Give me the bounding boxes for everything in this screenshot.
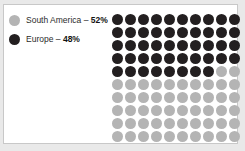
- dot-south-america: [190, 131, 201, 142]
- dot-europe: [190, 40, 201, 51]
- dot-south-america: [151, 105, 162, 116]
- dot-south-america: [125, 105, 136, 116]
- dot-europe: [177, 40, 188, 51]
- dot-south-america: [229, 79, 240, 90]
- dot-europe: [177, 27, 188, 38]
- dot-europe: [203, 14, 214, 25]
- legend-separator-europe: –: [56, 34, 61, 44]
- dot-south-america: [216, 66, 227, 77]
- dot-europe: [164, 14, 175, 25]
- dot-europe: [216, 14, 227, 25]
- legend-swatch-south-america: [9, 15, 20, 26]
- dot-south-america: [151, 92, 162, 103]
- dot-europe: [229, 14, 240, 25]
- dot-europe: [138, 14, 149, 25]
- dot-europe: [190, 53, 201, 64]
- dot-europe: [216, 27, 227, 38]
- dot-south-america: [203, 118, 214, 129]
- legend-item-europe[interactable]: Europe – 48%: [9, 30, 109, 48]
- dot-europe: [138, 66, 149, 77]
- dot-europe: [229, 27, 240, 38]
- dot-south-america: [216, 118, 227, 129]
- dot-europe: [112, 40, 123, 51]
- legend-separator-south-america: –: [84, 15, 89, 25]
- dot-europe: [203, 27, 214, 38]
- dot-south-america: [112, 131, 123, 142]
- dot-south-america: [177, 92, 188, 103]
- legend-name-europe: Europe: [26, 34, 53, 44]
- legend-name-south-america: South America: [26, 15, 81, 25]
- dot-south-america: [164, 105, 175, 116]
- legend-item-south-america[interactable]: South America – 52%: [9, 11, 109, 29]
- dot-europe: [177, 14, 188, 25]
- chart-legend: South America – 52% Europe – 48%: [9, 11, 109, 49]
- dot-south-america: [190, 92, 201, 103]
- dot-south-america: [203, 79, 214, 90]
- dot-south-america: [138, 79, 149, 90]
- dot-row: [112, 131, 242, 144]
- dot-south-america: [216, 92, 227, 103]
- dot-row: [112, 14, 242, 27]
- dot-south-america: [164, 79, 175, 90]
- dot-europe: [112, 14, 123, 25]
- dot-south-america: [138, 105, 149, 116]
- dot-europe: [190, 27, 201, 38]
- dot-south-america: [203, 105, 214, 116]
- dot-south-america: [112, 79, 123, 90]
- dot-south-america: [151, 118, 162, 129]
- legend-value-south-america: 52%: [91, 15, 108, 25]
- dot-south-america: [216, 105, 227, 116]
- dot-south-america: [138, 118, 149, 129]
- dot-europe: [203, 66, 214, 77]
- dot-south-america: [164, 131, 175, 142]
- legend-label-europe: Europe – 48%: [26, 34, 80, 45]
- dot-south-america: [138, 92, 149, 103]
- dot-south-america: [177, 118, 188, 129]
- pictogram-chart-figure: South America – 52% Europe – 48%: [0, 0, 245, 151]
- dot-europe: [112, 53, 123, 64]
- legend-label-south-america: South America – 52%: [26, 15, 108, 26]
- dot-south-america: [216, 131, 227, 142]
- dot-europe: [177, 53, 188, 64]
- dot-south-america: [229, 105, 240, 116]
- dot-europe: [229, 40, 240, 51]
- dot-europe: [138, 40, 149, 51]
- dot-south-america: [177, 105, 188, 116]
- dot-row: [112, 92, 242, 105]
- dot-row: [112, 79, 242, 92]
- dot-south-america: [229, 92, 240, 103]
- dot-south-america: [151, 131, 162, 142]
- dot-south-america: [203, 92, 214, 103]
- dot-europe: [125, 66, 136, 77]
- legend-value-europe: 48%: [63, 34, 80, 44]
- dot-south-america: [112, 118, 123, 129]
- dot-row: [112, 66, 242, 79]
- dot-south-america: [177, 131, 188, 142]
- dot-south-america: [112, 105, 123, 116]
- dot-europe: [125, 40, 136, 51]
- dot-row: [112, 53, 242, 66]
- dot-europe: [151, 14, 162, 25]
- dot-europe: [164, 53, 175, 64]
- dot-europe: [190, 66, 201, 77]
- dot-south-america: [177, 79, 188, 90]
- dot-south-america: [125, 131, 136, 142]
- dot-europe: [138, 27, 149, 38]
- dot-row: [112, 105, 242, 118]
- dot-south-america: [203, 131, 214, 142]
- dot-south-america: [164, 118, 175, 129]
- dot-south-america: [229, 66, 240, 77]
- dot-south-america: [138, 131, 149, 142]
- dot-row: [112, 118, 242, 131]
- dot-europe: [203, 53, 214, 64]
- dot-europe: [229, 53, 240, 64]
- dot-europe: [125, 14, 136, 25]
- legend-swatch-europe: [9, 34, 20, 45]
- dot-south-america: [164, 92, 175, 103]
- dot-south-america: [216, 79, 227, 90]
- dot-south-america: [190, 79, 201, 90]
- dot-europe: [138, 53, 149, 64]
- dot-europe: [164, 66, 175, 77]
- dot-europe: [164, 27, 175, 38]
- dot-europe: [112, 27, 123, 38]
